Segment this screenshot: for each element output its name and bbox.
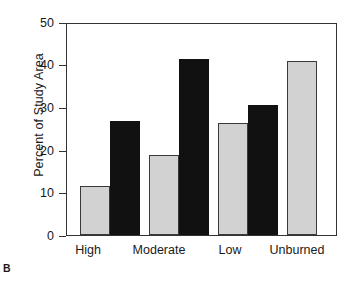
bar-unburned-gray xyxy=(287,61,317,235)
y-tick-label-0: 0 xyxy=(14,230,54,243)
bar-chart-figure: Percent of Study Area 50 40 30 20 10 0 H… xyxy=(0,0,356,281)
y-tick-mark-0 xyxy=(59,236,66,237)
y-tick-mark-20 xyxy=(59,151,66,152)
plot-area xyxy=(66,23,337,236)
bar-low-gray xyxy=(218,123,248,235)
y-tick-label-30: 30 xyxy=(14,102,54,115)
y-tick-mark-50 xyxy=(59,23,66,24)
bar-high-gray xyxy=(80,186,110,235)
bar-high-black xyxy=(110,121,140,235)
x-tick-label-low: Low xyxy=(203,243,257,257)
y-tick-mark-10 xyxy=(59,193,66,194)
x-tick-label-high: High xyxy=(58,243,118,257)
y-axis-title: Percent of Study Area xyxy=(32,15,46,215)
bar-moderate-gray xyxy=(149,155,179,235)
y-tick-label-20: 20 xyxy=(14,145,54,158)
y-tick-label-10: 10 xyxy=(14,187,54,200)
y-tick-mark-40 xyxy=(59,65,66,66)
bar-moderate-black xyxy=(179,59,209,235)
x-tick-label-unburned: Unburned xyxy=(256,243,338,257)
bars-container xyxy=(67,24,336,235)
bar-low-black xyxy=(248,105,278,235)
y-tick-label-40: 40 xyxy=(14,59,54,72)
x-tick-label-moderate: Moderate xyxy=(120,243,198,257)
y-tick-mark-30 xyxy=(59,108,66,109)
y-tick-label-50: 50 xyxy=(14,17,54,30)
panel-letter: B xyxy=(3,262,11,274)
